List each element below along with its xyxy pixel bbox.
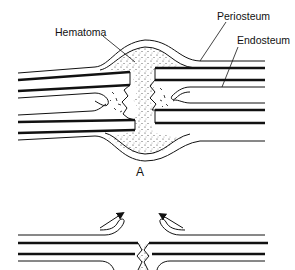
- fracture-healing-diagram: Hematoma Periosteum Endosteum A: [0, 0, 295, 270]
- endosteum-label: Endosteum: [237, 34, 290, 46]
- fracture-gap-fill: [137, 244, 149, 270]
- hematoma-region: [108, 47, 182, 154]
- arrow-up-left-icon: [160, 214, 183, 228]
- periosteum-label: Periosteum: [217, 10, 270, 22]
- periosteum-leader: [200, 22, 226, 61]
- panel-b: [18, 213, 268, 270]
- panel-a-label: A: [136, 165, 144, 179]
- left-bone-fragment: [18, 72, 135, 133]
- panel-a: Hematoma Periosteum Endosteum A: [18, 10, 290, 179]
- hematoma-label: Hematoma: [55, 26, 107, 38]
- right-bone-fragment: [150, 68, 265, 123]
